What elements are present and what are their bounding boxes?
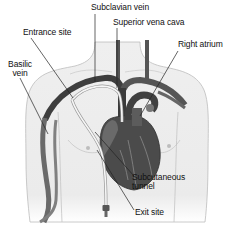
catheter-hub: [103, 205, 110, 211]
label-subcutaneous-tunnel: Subcutaneous tunnel: [132, 173, 185, 191]
label-right-atrium: Right atrium: [178, 40, 223, 49]
label-basilic-vein: Basilic vein: [6, 60, 34, 78]
label-exit-site: Exit site: [135, 208, 164, 217]
label-superior-vena-cava: Superior vena cava: [113, 18, 184, 27]
left-nipple: [86, 146, 90, 150]
label-entrance-site: Entrance site: [23, 28, 71, 37]
catheter-anatomy-diagram: Subclavian vein Superior vena cava Entra…: [0, 0, 237, 228]
right-nipple: [167, 144, 171, 148]
label-subcutaneous-tunnel-line2: tunnel: [132, 182, 185, 191]
label-subclavian-vein: Subclavian vein: [91, 3, 149, 12]
label-basilic-vein-line2: vein: [6, 69, 34, 78]
